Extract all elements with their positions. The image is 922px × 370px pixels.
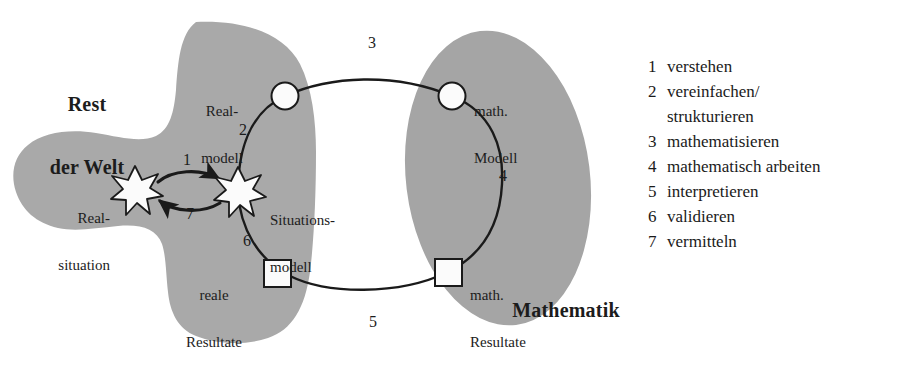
- node-label-real-modell: Real- modell: [180, 72, 264, 198]
- node-label-real-situation: Real- situation: [10, 179, 110, 305]
- node-label-math-modell: math. Modell: [474, 72, 564, 198]
- legend: 1 verstehen 2 vereinfachen/ strukturiere…: [648, 54, 910, 254]
- node-label-reale-resultate: reale Resultate: [168, 256, 260, 370]
- edge-number-1: 1: [179, 152, 195, 169]
- legend-item-7-number: 7: [648, 229, 667, 254]
- legend-item-3: 3 mathematisieren: [648, 129, 910, 154]
- edge-number-5: 5: [365, 314, 381, 331]
- node-label-math-modell-line1: math.: [474, 104, 564, 120]
- legend-item-4-label: mathematisch arbeiten: [667, 154, 910, 179]
- legend-item-1: 1 verstehen: [648, 54, 910, 79]
- legend-item-4-number: 4: [648, 154, 667, 179]
- legend-item-5-number: 5: [648, 179, 667, 204]
- edge-number-7: 7: [182, 206, 198, 223]
- legend-item-7-label: vermitteln: [667, 229, 910, 254]
- region-label-rest-der-welt-line2: der Welt: [22, 157, 152, 178]
- legend-item-2: 2 vereinfachen/: [648, 79, 910, 104]
- node-math-resultate-shape: [435, 259, 462, 286]
- modelling-cycle-figure: Rest der Welt Mathematik Real- situation…: [0, 0, 922, 370]
- edge-number-2: 2: [235, 122, 251, 139]
- legend-item-5: 5 interpretieren: [648, 179, 910, 204]
- legend-item-5-label: interpretieren: [667, 179, 910, 204]
- legend-item-6-number: 6: [648, 204, 667, 229]
- node-label-reale-resultate-line1: reale: [168, 288, 260, 304]
- edge-number-4: 4: [495, 168, 511, 185]
- legend-item-6: 6 validieren: [648, 204, 910, 229]
- edge-number-6: 6: [239, 233, 255, 250]
- node-real-modell-shape: [272, 83, 299, 110]
- node-label-reale-resultate-line2: Resultate: [168, 335, 260, 351]
- legend-item-1-number: 1: [648, 54, 667, 79]
- node-label-situations-modell-line2: modell: [270, 260, 390, 276]
- legend-item-6-label: validieren: [667, 204, 910, 229]
- node-label-situations-modell-line1: Situations-: [270, 213, 390, 229]
- legend-item-1-label: verstehen: [667, 54, 910, 79]
- legend-item-7: 7 vermitteln: [648, 229, 910, 254]
- node-label-math-resultate: math. Resultate: [470, 256, 570, 370]
- node-label-math-resultate-line2: Resultate: [470, 335, 570, 351]
- node-label-real-situation-line2: situation: [10, 258, 110, 274]
- legend-item-4: 4 mathematisch arbeiten: [648, 154, 910, 179]
- edge-number-3: 3: [364, 35, 380, 52]
- legend-item-2-number: 2: [648, 79, 667, 104]
- node-label-real-situation-line1: Real-: [10, 211, 110, 227]
- legend-item-2-label-continuation: strukturieren: [648, 104, 910, 129]
- legend-item-3-number: 3: [648, 129, 667, 154]
- legend-item-2-label: vereinfachen/: [667, 79, 910, 104]
- node-label-math-modell-line2: Modell: [474, 151, 564, 167]
- node-math-modell-shape: [439, 83, 466, 110]
- node-label-real-modell-line1: Real-: [180, 104, 264, 120]
- node-label-situations-modell: Situations- modell: [270, 181, 390, 307]
- node-label-math-resultate-line1: math.: [470, 288, 570, 304]
- legend-item-3-label: mathematisieren: [667, 129, 910, 154]
- region-label-rest-der-welt-line1: Rest: [22, 94, 152, 115]
